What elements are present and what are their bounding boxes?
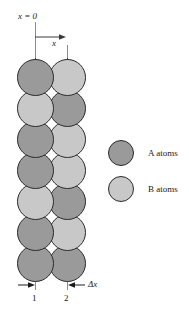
legend-label-a: A atoms: [148, 148, 178, 158]
plane-2-label-text: 2: [64, 293, 69, 303]
legend-label-b: B atoms: [148, 184, 178, 194]
delta-x-left-arrow: [18, 280, 36, 290]
atom-lattice-figure: x = 0 x Δx 1 2 A atomsB atoms: [0, 0, 189, 312]
atom-b: [49, 59, 86, 96]
legend-swatch-a: [108, 140, 134, 166]
origin-label-text: x = 0: [18, 11, 37, 21]
x-direction-label-text: x: [52, 38, 56, 48]
origin-label: x = 0: [18, 12, 37, 21]
plane-2-label: 2: [64, 294, 69, 303]
atom-a: [17, 59, 54, 96]
x-direction-arrow: [35, 32, 67, 42]
legend: A atomsB atoms: [108, 140, 189, 210]
plane-1-label: 1: [32, 294, 37, 303]
delta-x-label-text: Δx: [88, 279, 97, 289]
plane-1-label-text: 1: [32, 293, 37, 303]
reference-line-plane-2-upper: [67, 45, 68, 58]
delta-x-right-arrow: [67, 280, 85, 290]
x-direction-label: x: [52, 39, 56, 48]
legend-swatch-b: [108, 176, 134, 202]
delta-x-label: Δx: [88, 280, 97, 289]
legend-item-a: A atoms: [108, 140, 178, 166]
legend-item-b: B atoms: [108, 176, 178, 202]
